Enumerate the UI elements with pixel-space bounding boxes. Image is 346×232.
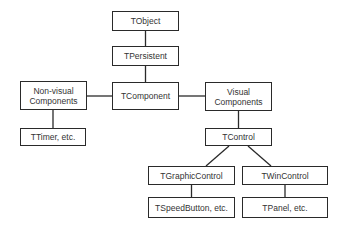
node-tpersistent: TPersistent [112,46,179,66]
node-label: TTimer, etc. [31,132,76,142]
node-label-line2: Components [29,96,77,106]
node-tcomponent: TComponent [112,82,179,110]
node-label: TComponent [121,91,170,101]
node-tcontrol: TControl [205,128,272,146]
node-visual-components: Visual Components [205,82,272,111]
node-label: TGraphicControl [160,171,222,181]
node-nonvisual-components: Non-visual Components [20,81,87,110]
node-label: TPersistent [124,51,167,61]
node-ttimer: TTimer, etc. [20,128,86,146]
node-twincontrol: TWinControl [242,166,328,185]
node-label-line2: Components [214,97,262,107]
node-label: TWinControl [261,171,308,181]
node-tgraphiccontrol: TGraphicControl [148,166,235,185]
node-label: TSpeedButton, etc. [155,203,228,213]
node-label: TPanel, etc. [262,203,307,213]
node-label: TObject [131,16,161,26]
node-label: TControl [222,132,255,142]
node-tspeedbutton: TSpeedButton, etc. [148,197,235,218]
node-tobject: TObject [112,11,179,31]
node-tpanel: TPanel, etc. [242,197,328,218]
node-label-line1: Visual [227,87,250,97]
node-label-line1: Non-visual [33,86,73,96]
